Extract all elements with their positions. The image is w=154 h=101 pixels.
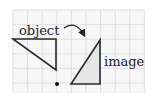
- rotation-diagram: object image: [0, 0, 154, 101]
- center-of-rotation-dot: [55, 82, 59, 86]
- object-label: object: [19, 23, 60, 38]
- image-label: image: [104, 54, 145, 69]
